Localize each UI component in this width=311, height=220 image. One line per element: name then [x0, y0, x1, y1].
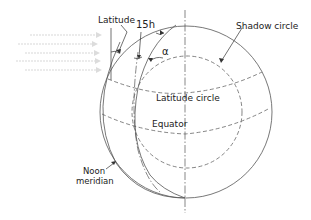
hour-angle-label: 15h	[136, 19, 155, 30]
noon-meridian-label-line2: meridian	[76, 176, 114, 186]
latitude-label: Latitude	[98, 15, 136, 25]
shadow-circle	[132, 56, 242, 168]
sphere-shadow-diagram: Latitude 15h α Shadow circle Latitude ci…	[0, 0, 311, 220]
noon-meridian-label-line1: Noon	[83, 166, 105, 176]
equator-label: Equator	[152, 119, 188, 129]
latitude-annotation	[111, 25, 127, 80]
latitude-circle-label: Latitude circle	[156, 93, 220, 103]
shadow-circle-leader	[219, 28, 242, 63]
alpha-annotation	[148, 57, 163, 62]
sphere-outline	[100, 26, 272, 198]
alpha-label: α	[162, 46, 169, 57]
hour-meridian	[135, 25, 185, 198]
noon-meridian-leader	[106, 161, 116, 169]
shadow-circle-label: Shadow circle	[236, 21, 299, 31]
sun-rays	[16, 32, 102, 73]
